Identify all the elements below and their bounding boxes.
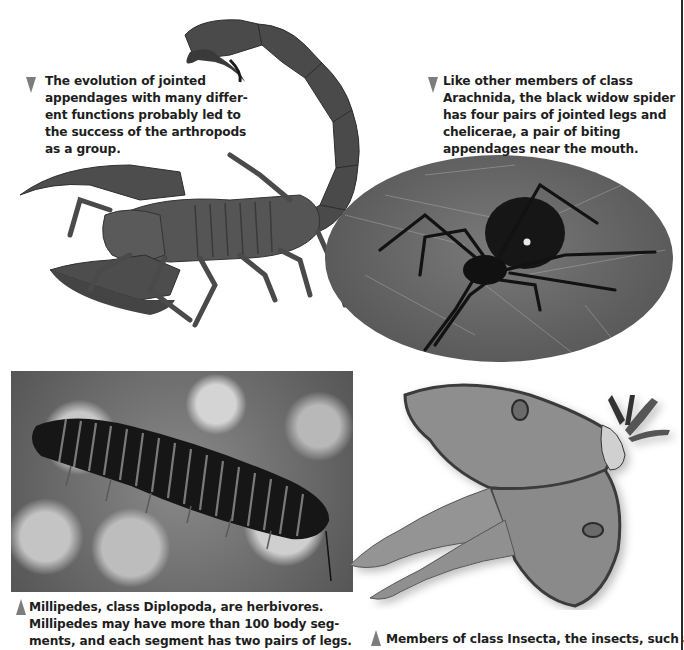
caption-line: ent functions probably led to	[45, 107, 248, 124]
caption-line: Millipedes, class Diplopoda, are herbivo…	[29, 599, 352, 616]
caption-line: Arachnida, the black widow spider	[443, 90, 675, 107]
down-triangle-icon	[26, 77, 36, 93]
caption-line: as a group.	[45, 141, 248, 158]
caption-line: the success of the arthropods	[45, 124, 248, 141]
up-triangle-icon	[16, 599, 26, 615]
millipede-photo	[11, 371, 353, 592]
caption-line: ments, and each segment has two pairs of…	[29, 633, 352, 650]
down-triangle-icon	[428, 77, 438, 93]
up-triangle-icon	[371, 630, 381, 646]
page-edge-rule	[681, 0, 683, 650]
caption-line: appendages with many differ-	[45, 90, 248, 107]
black-widow-spider-photo	[325, 155, 673, 362]
caption-line: The evolution of jointed	[45, 73, 248, 90]
caption-line: Members of class Insecta, the insects, s…	[386, 631, 684, 648]
caption-line: appendages near the mouth.	[443, 141, 675, 158]
caption-line: chelicerae, a pair of biting	[443, 124, 675, 141]
caption-line: Millipedes may have more than 100 body s…	[29, 616, 352, 633]
luna-moth-photo	[340, 370, 684, 610]
scorpion-photo	[0, 0, 380, 340]
caption-line: has four pairs of jointed legs and	[443, 107, 675, 124]
caption-line: Like other members of class	[443, 73, 675, 90]
